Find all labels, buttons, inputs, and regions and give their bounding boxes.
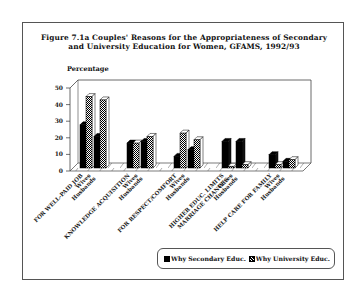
solid-black-swatch-icon [164,256,170,262]
svg-text:30: 30 [55,117,63,124]
legend-item-secondary: Why Secondary Educ. [164,255,246,262]
x-axis-labels: FOR WELL-PAID JOBWivesHusbandsKNOWLEDGE … [33,172,286,241]
svg-text:0: 0 [59,167,63,174]
svg-text:40: 40 [55,101,63,108]
legend: Why Secondary Educ. Why University Educ. [157,248,335,269]
svg-text:50: 50 [55,84,63,91]
svg-text:20: 20 [55,134,63,141]
legend-item-university: Why University Educ. [249,255,330,262]
checkered-swatch-icon [249,256,255,262]
svg-text:10: 10 [55,150,63,157]
bars [80,94,298,168]
